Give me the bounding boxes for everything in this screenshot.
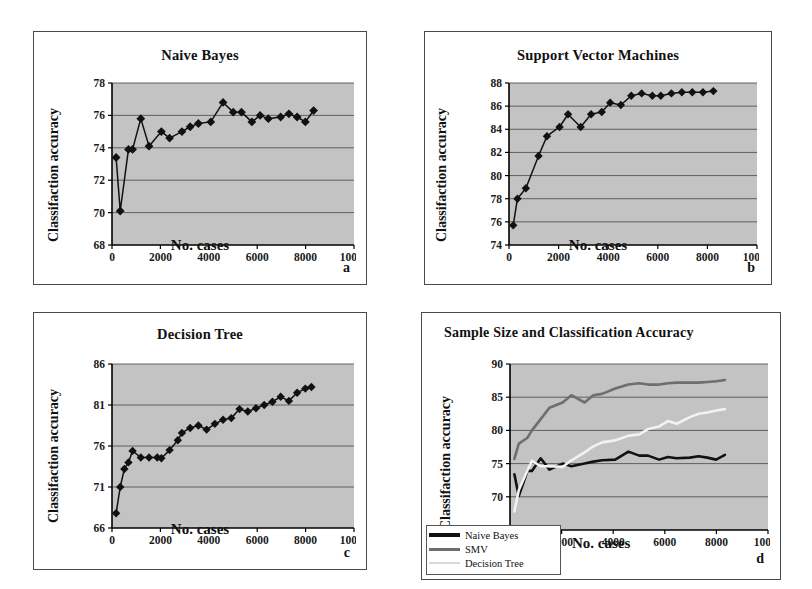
svg-text:72: 72 — [94, 174, 106, 186]
panel-letter-a: a — [343, 260, 350, 276]
svg-text:71: 71 — [94, 481, 106, 493]
y-axis-label-c: Classifaction accuracy — [46, 376, 62, 536]
panel-support-vector-machines: Support Vector Machines Classifaction ac… — [424, 31, 772, 285]
svg-text:76: 76 — [491, 216, 503, 228]
svg-text:6000: 6000 — [653, 536, 676, 548]
legend-swatch-naive-bayes — [429, 533, 460, 537]
svg-text:80: 80 — [492, 424, 504, 436]
svg-text:70: 70 — [94, 207, 106, 219]
svg-text:86: 86 — [491, 100, 503, 112]
legend-label-decision-tree: Decision Tree — [465, 558, 524, 569]
svg-text:84: 84 — [491, 123, 503, 135]
panel-naive-bayes: Naive Bayes Classifaction accuracy 68707… — [33, 31, 367, 285]
legend-swatch-smv — [429, 548, 460, 551]
x-axis-label-b: No. cases — [425, 237, 771, 254]
panel-letter-c: c — [344, 545, 350, 561]
legend-item-decision-tree: Decision Tree — [429, 556, 557, 570]
svg-text:86: 86 — [94, 358, 106, 370]
svg-text:88: 88 — [491, 77, 503, 89]
chart-title-b: Support Vector Machines — [425, 47, 771, 64]
y-axis-label-a: Classifaction accuracy — [46, 95, 62, 255]
legend-item-naive-bayes: Naive Bayes — [429, 528, 557, 542]
chart-title-c: Decision Tree — [34, 326, 366, 343]
svg-text:70: 70 — [492, 491, 504, 503]
panel-letter-d: d — [756, 551, 764, 567]
chart-title-d: Sample Size and Classification Accuracy — [444, 325, 780, 341]
svg-text:76: 76 — [94, 440, 106, 452]
svg-text:78: 78 — [94, 77, 106, 89]
x-axis-label-c: No. cases — [34, 521, 366, 538]
legend-swatch-decision-tree — [429, 562, 460, 564]
x-axis-label-a: No. cases — [34, 237, 366, 254]
svg-text:78: 78 — [491, 193, 503, 205]
chart-legend: Naive Bayes SMV Decision Tree — [426, 525, 561, 575]
svg-text:76: 76 — [94, 109, 106, 121]
svg-text:8000: 8000 — [705, 536, 728, 548]
figure-grid: Naive Bayes Classifaction accuracy 68707… — [0, 0, 812, 589]
y-axis-label-b: Classifaction accuracy — [434, 95, 450, 255]
x-axis-label-d: No. cases — [572, 535, 630, 552]
svg-text:75: 75 — [492, 458, 504, 470]
panel-letter-b: b — [747, 260, 755, 276]
panel-combined: Sample Size and Classification Accuracy … — [421, 312, 781, 580]
legend-label-smv: SMV — [465, 544, 488, 555]
svg-text:82: 82 — [491, 146, 503, 158]
svg-text:81: 81 — [94, 399, 106, 411]
svg-text:85: 85 — [492, 391, 504, 403]
legend-item-smv: SMV — [429, 542, 557, 556]
svg-text:74: 74 — [94, 142, 106, 154]
svg-text:10000: 10000 — [754, 536, 770, 548]
panel-decision-tree: Decision Tree Classifaction accuracy 667… — [33, 312, 367, 570]
svg-text:90: 90 — [492, 358, 504, 370]
legend-label-naive-bayes: Naive Bayes — [465, 530, 518, 541]
svg-text:80: 80 — [491, 170, 503, 182]
chart-title-a: Naive Bayes — [34, 47, 366, 64]
